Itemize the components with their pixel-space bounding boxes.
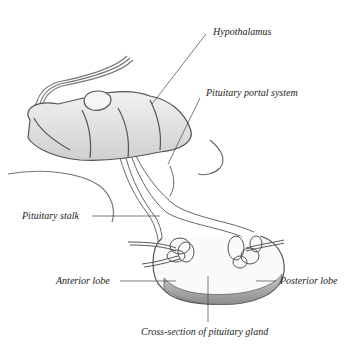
label-anterior-lobe: Anterior lobe xyxy=(56,276,110,286)
label-posterior-lobe: Posterior lobe xyxy=(280,276,338,286)
label-pituitary-stalk: Pituitary stalk xyxy=(22,211,79,221)
anatomy-illustration xyxy=(0,0,357,348)
pituitary-drawing xyxy=(0,0,357,348)
label-pituitary-portal-system: Pituitary portal system xyxy=(206,88,298,98)
label-cross-section: Cross-section of pituitary gland xyxy=(141,327,268,337)
right-contour xyxy=(198,140,223,175)
hypothalamus-mass xyxy=(28,91,191,160)
label-hypothalamus: Hypothalamus xyxy=(213,27,271,37)
